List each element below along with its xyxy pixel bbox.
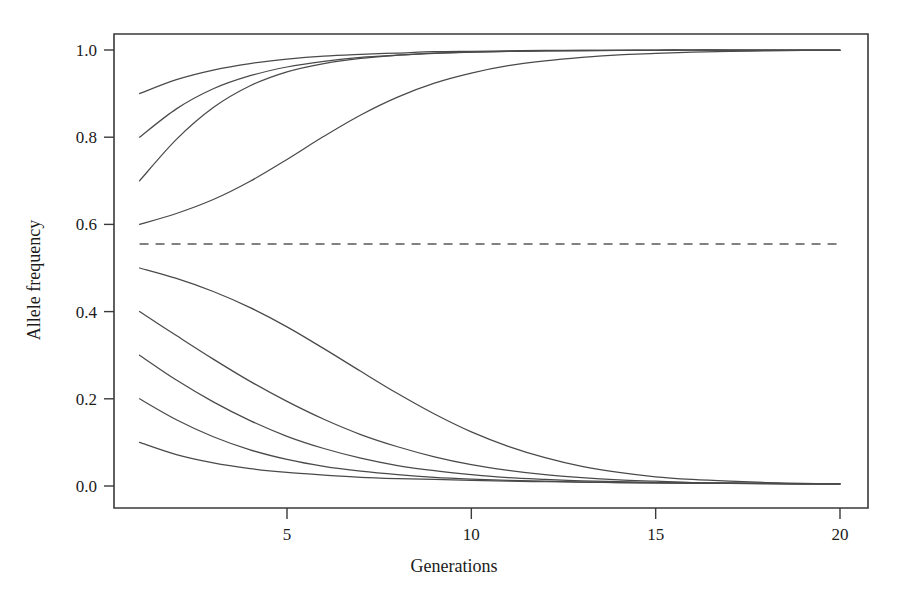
y-tick-label-0.2: 0.2 [76, 390, 97, 409]
chart-page: 0.00.20.40.60.81.0 5101520 Generations A… [0, 0, 909, 599]
y-tick-label-0.6: 0.6 [76, 215, 97, 234]
y-tick-label-0.4: 0.4 [76, 303, 98, 322]
x-tick-label-5: 5 [283, 525, 292, 544]
x-tick-label-10: 10 [463, 525, 480, 544]
y-tick-label-1.0: 1.0 [76, 41, 97, 60]
x-tick-label-15: 15 [647, 525, 664, 544]
x-axis-title: Generations [411, 556, 498, 576]
y-tick-label-0.8: 0.8 [76, 128, 97, 147]
chart-background [0, 0, 909, 599]
allele-frequency-line-chart: 0.00.20.40.60.81.0 5101520 Generations A… [0, 0, 909, 599]
x-tick-label-20: 20 [832, 525, 849, 544]
y-tick-label-0.0: 0.0 [76, 477, 97, 496]
y-axis-title: Allele frequency [24, 220, 44, 340]
